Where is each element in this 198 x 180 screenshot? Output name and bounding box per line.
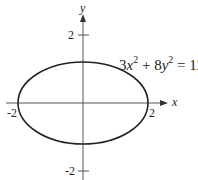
y-axis-arrow-icon <box>80 14 86 22</box>
eq-plus: + 8 <box>138 57 161 73</box>
x-axis-label: x <box>172 96 177 108</box>
y-axis-label: y <box>80 2 85 14</box>
x-tick-label-2: 2 <box>149 107 155 119</box>
eq-rhs: = 12 <box>173 57 198 73</box>
ellipse-plot <box>0 0 198 180</box>
x-axis-arrow-icon <box>160 100 168 106</box>
eq-coef-x: 3 <box>119 57 127 73</box>
y-tick-label-neg2: -2 <box>65 165 75 177</box>
ellipse-equation: 3x2 + 8y2 = 12 <box>119 52 198 73</box>
y-tick-label-2: 2 <box>68 29 74 41</box>
x-tick-label-neg2: -2 <box>7 107 17 119</box>
